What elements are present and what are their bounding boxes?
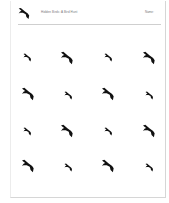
- bird-silhouette-icon: [101, 87, 117, 101]
- bird-silhouette-icon: [21, 159, 37, 173]
- bird-silhouette-icon: [64, 91, 74, 100]
- bird-grid: [11, 1, 165, 197]
- bird-silhouette-icon: [23, 127, 33, 136]
- bird-silhouette-icon: [104, 127, 114, 136]
- bird-silhouette-icon: [23, 53, 33, 62]
- bird-silhouette-icon: [101, 159, 117, 173]
- worksheet-page: Hidden Birds: A Bird Hunt Name:: [10, 1, 166, 198]
- bird-silhouette-icon: [64, 163, 74, 172]
- bird-silhouette-icon: [60, 51, 76, 65]
- bird-silhouette-icon: [21, 87, 37, 101]
- bird-silhouette-icon: [104, 53, 114, 62]
- bird-silhouette-icon: [145, 91, 155, 100]
- bird-silhouette-icon: [60, 124, 76, 138]
- bird-silhouette-icon: [142, 124, 158, 138]
- bird-silhouette-icon: [145, 163, 155, 172]
- bird-silhouette-icon: [142, 51, 158, 65]
